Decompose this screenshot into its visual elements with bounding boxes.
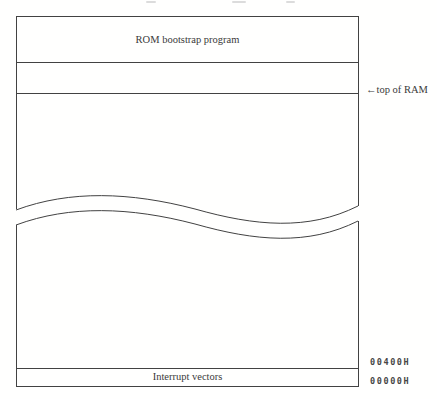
address-label-00000h: 00000H bbox=[370, 377, 410, 386]
rom-bootstrap-region-label: ROM bootstrap program bbox=[16, 17, 359, 62]
top-of-ram-annotation: ←top of RAM bbox=[366, 84, 428, 96]
memory-map-diagram: ROM bootstrap program ←top of RAM Interr… bbox=[0, 0, 437, 399]
break-wave-upper bbox=[16, 196, 358, 224]
address-label-00400h: 00400H bbox=[370, 358, 410, 367]
break-wave-lower bbox=[16, 211, 358, 239]
interrupt-vectors-region-label: Interrupt vectors bbox=[16, 369, 359, 385]
